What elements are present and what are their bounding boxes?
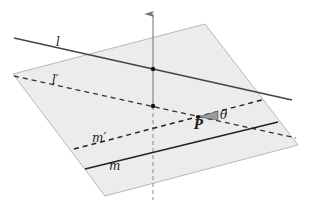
point-l-axis-intersection [151, 67, 155, 71]
label-m-prime: m′ [92, 131, 106, 145]
plane [13, 24, 298, 196]
label-m: m [109, 159, 120, 173]
label-P: P [193, 118, 204, 132]
label-l-prime: l′ [52, 73, 59, 87]
label-theta: θ [220, 108, 228, 122]
geometry-diagram: l l′ m′ m P θ [0, 0, 309, 216]
point-projection-origin [151, 104, 155, 108]
label-l: l [56, 35, 60, 49]
